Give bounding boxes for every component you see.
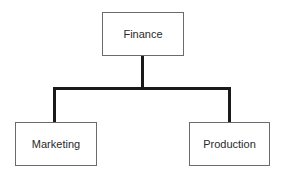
- right-branch-connector: [228, 87, 231, 123]
- node-finance: Finance: [102, 12, 184, 56]
- node-production: Production: [189, 122, 270, 166]
- node-label: Finance: [123, 28, 162, 40]
- left-branch-connector: [53, 87, 56, 123]
- horizontal-connector: [53, 87, 231, 90]
- root-stem-connector: [141, 55, 144, 89]
- node-label: Marketing: [32, 138, 80, 150]
- node-label: Production: [203, 138, 256, 150]
- node-marketing: Marketing: [15, 122, 97, 166]
